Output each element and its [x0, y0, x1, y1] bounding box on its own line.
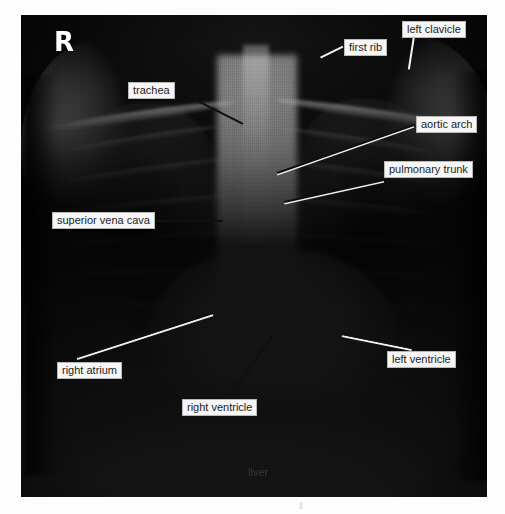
leader-line — [151, 220, 223, 222]
annotation-label-trachea: trachea — [128, 82, 175, 99]
side-marker-r: R — [54, 29, 74, 55]
page-artifact-mark — [299, 502, 303, 509]
annotation-label-right-ventricle: right ventricle — [182, 399, 257, 416]
annotation-label-first-rib: first rib — [344, 39, 387, 56]
annotation-label-right-atrium: right atrium — [57, 362, 122, 379]
chest-xray-image: R — [21, 15, 487, 497]
annotation-label-liver: liver — [248, 466, 268, 478]
annotation-label-aortic-arch: aortic arch — [416, 116, 477, 133]
film-grain — [21, 15, 487, 497]
annotation-label-superior-vena-cava: superior vena cava — [52, 212, 155, 229]
annotation-label-left-clavicle: left clavicle — [402, 21, 466, 38]
annotation-label-pulmonary-trunk: pulmonary trunk — [384, 161, 473, 178]
radiograph-figure: R tracheafirst ribleft clavicleaortic ar… — [0, 0, 505, 514]
annotation-label-left-ventricle: left ventricle — [387, 351, 456, 368]
